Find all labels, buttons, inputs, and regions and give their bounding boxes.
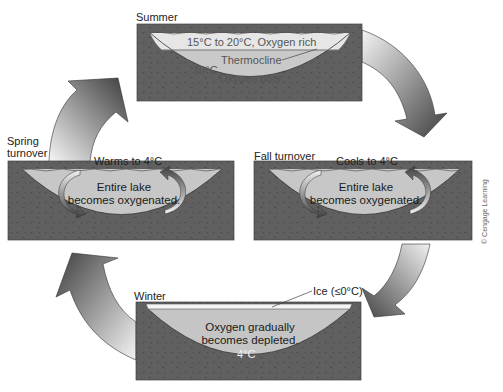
winter-body-line2: becomes depleted. — [190, 334, 310, 346]
spring-surface-note: Warms to 4°C — [94, 155, 162, 167]
summer-title: Summer — [136, 11, 178, 23]
fall-surface-note: Cools to 4°C — [336, 155, 398, 167]
summer-top-layer-label: 15°C to 20°C, Oxygen rich — [187, 36, 316, 48]
summer-bottom-layer-label: Oxygen poor — [219, 72, 282, 84]
ice-label: Ice (≤0°C) — [313, 285, 363, 297]
arrow-summer-to-fall — [362, 30, 447, 137]
ice-layer — [146, 304, 352, 309]
arrow-fall-to-winter — [362, 244, 430, 317]
winter-bottom-temp: 4°C — [237, 348, 255, 360]
arrow-spring-to-summer — [49, 78, 128, 162]
arrow-winter-to-spring — [56, 253, 136, 360]
spring-title-line1: Spring — [7, 135, 39, 147]
fall-body-line2: becomes oxygenated. — [302, 194, 430, 206]
copyright-credit: © Cengage Learning — [481, 179, 488, 244]
fall-title: Fall turnover — [254, 150, 315, 162]
thermocline-label: Thermocline — [221, 54, 282, 66]
spring-body-line1: Entire lake — [80, 181, 168, 193]
spring-body-line2: becomes oxygenated. — [60, 194, 188, 206]
winter-body-line1: Oxygen gradually — [190, 321, 310, 333]
fall-body-line1: Entire lake — [322, 181, 410, 193]
spring-title-line2: turnover — [7, 147, 47, 159]
summer-bottom-temp: 10°C — [193, 64, 218, 76]
winter-title: Winter — [134, 290, 166, 302]
